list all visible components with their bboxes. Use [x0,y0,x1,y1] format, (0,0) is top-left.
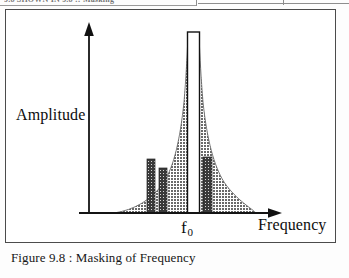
y-axis-arrow-icon [84,22,94,36]
masking-threshold-area [114,36,256,213]
top-rule-tick-right [283,0,284,5]
masked-tone-bar-3 [203,157,212,213]
figure-frame: Amplitude Frequency f0 [5,9,336,243]
masked-tone-bar-2 [159,168,167,213]
page-root: 9.8 SHOWN IN 9.8 :: Masking [0,0,349,278]
x-axis-tick-f0-base: f [181,218,187,237]
top-rule-tick-left [196,0,197,6]
x-axis-label: Frequency [258,216,326,234]
top-text-fragment: 9.8 SHOWN IN 9.8 :: Masking [4,0,114,4]
top-rule-right [198,3,349,4]
x-axis-tick-f0-subscript: 0 [187,226,193,238]
scanned-page-top-strip: 9.8 SHOWN IN 9.8 :: Masking [0,0,349,8]
top-rule-left [0,5,196,6]
y-axis-label: Amplitude [16,106,85,124]
figure-caption: Figure 9.8 : Masking of Frequency [11,250,196,266]
masking-chart [6,10,335,242]
masked-tone-bar-1 [147,159,155,213]
masker-tone-bar [188,32,200,213]
x-axis-tick-f0: f0 [181,218,193,238]
